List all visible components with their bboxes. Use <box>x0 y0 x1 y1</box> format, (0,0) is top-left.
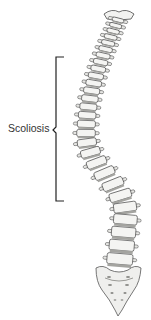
vertebra <box>107 226 140 241</box>
vertebra <box>74 111 100 121</box>
vertebra <box>102 252 137 268</box>
sacrum <box>96 266 141 316</box>
scoliosis-bracket <box>53 57 64 201</box>
spine-diagram <box>0 0 151 320</box>
vertebra <box>105 239 139 255</box>
vertebra <box>73 120 99 130</box>
vertebra <box>73 129 100 138</box>
vertebral-column <box>73 16 142 269</box>
vertebra <box>109 213 141 228</box>
vertebra <box>75 102 101 112</box>
scoliosis-label: Scoliosis <box>8 122 49 134</box>
